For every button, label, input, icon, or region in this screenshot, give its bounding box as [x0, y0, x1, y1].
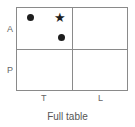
row-label-p: P	[7, 65, 13, 75]
column-label-t: T	[41, 93, 47, 103]
dot-marker-icon	[27, 14, 34, 21]
column-label-l: L	[98, 93, 103, 103]
caption: Full table	[0, 111, 135, 122]
star-marker-icon: ★	[54, 11, 66, 24]
dot-marker-icon	[58, 34, 65, 41]
row-divider	[17, 49, 127, 50]
row-label-a: A	[7, 24, 13, 34]
